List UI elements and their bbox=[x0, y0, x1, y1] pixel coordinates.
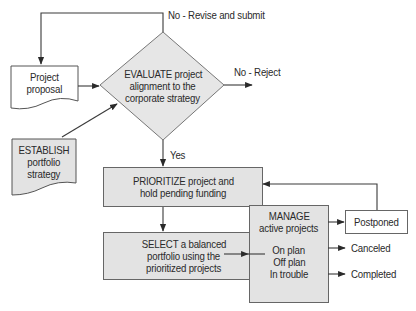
proposal-line-2: proposal bbox=[27, 83, 63, 95]
node-evaluate-decision: EVALUATE project alignment to the corpor… bbox=[108, 66, 218, 106]
node-project-proposal: Project proposal bbox=[11, 68, 78, 98]
prioritize-line-2: hold pending funding bbox=[140, 187, 226, 199]
node-postponed: Postponed bbox=[346, 211, 407, 233]
edge-establish-evaluate bbox=[62, 104, 117, 137]
edge-label-yes: Yes bbox=[170, 149, 185, 161]
establish-line-2: portfolio bbox=[28, 156, 61, 168]
prioritize-line-1: PRIORITIZE project and bbox=[132, 175, 233, 187]
manage-status-off-plan: Off plan bbox=[273, 256, 305, 268]
select-line-2: portfolio using the bbox=[147, 250, 220, 262]
postponed-label: Postponed bbox=[354, 216, 399, 228]
manage-line-1: MANAGE bbox=[269, 210, 310, 222]
evaluate-line-2: alignment to the bbox=[130, 80, 196, 92]
establish-line-1: ESTABLISH bbox=[19, 144, 70, 156]
node-establish-strategy: ESTABLISH portfolio strategy bbox=[12, 142, 76, 182]
evaluate-line-1: EVALUATE project bbox=[124, 68, 202, 80]
manage-line-2: active projects bbox=[259, 222, 318, 234]
edge-label-canceled: Canceled bbox=[351, 242, 391, 254]
node-select: SELECT a balanced portfolio using the pr… bbox=[104, 233, 264, 279]
select-line-3: prioritized projects bbox=[146, 262, 221, 274]
proposal-line-1: Project bbox=[30, 71, 59, 83]
edge-label-completed: Completed bbox=[351, 268, 396, 280]
manage-status-in-trouble: In trouble bbox=[270, 268, 309, 280]
edge-label-revise: No - Revise and submit bbox=[168, 9, 265, 21]
manage-status-on-plan: On plan bbox=[273, 244, 306, 256]
node-prioritize: PRIORITIZE project and hold pending fund… bbox=[104, 168, 262, 206]
edge-label-reject: No - Reject bbox=[234, 66, 280, 78]
node-manage: MANAGE active projects On plan Off plan … bbox=[250, 206, 328, 284]
select-line-1: SELECT a balanced bbox=[142, 238, 227, 250]
evaluate-line-3: corporate strategy bbox=[126, 92, 201, 104]
establish-line-3: strategy bbox=[27, 168, 60, 180]
